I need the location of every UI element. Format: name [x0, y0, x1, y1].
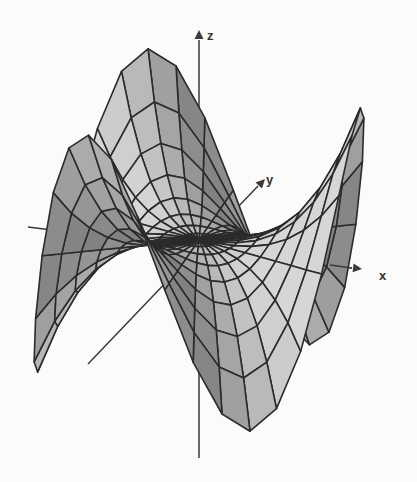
z-axis-arrow-icon: [195, 30, 204, 39]
y-axis-label: y: [266, 172, 274, 187]
surface-mesh: [34, 49, 364, 431]
surface-plot: z y x: [0, 0, 417, 482]
x-axis-arrow-icon: [353, 263, 362, 272]
z-axis-label: z: [207, 28, 214, 43]
x-axis-label: x: [379, 268, 387, 283]
